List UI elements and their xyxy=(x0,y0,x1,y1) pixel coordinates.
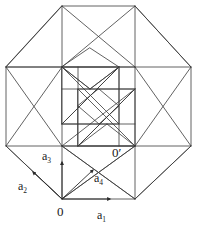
mid-band-lines xyxy=(62,67,135,146)
label-a1: a1 xyxy=(97,209,106,221)
arrow-a2 xyxy=(33,172,62,199)
label-a4: a4 xyxy=(94,172,103,184)
inner-cross-diagonals xyxy=(62,67,135,146)
label-a4-subscript: 4 xyxy=(99,178,103,187)
inner-square-frames xyxy=(62,67,135,146)
upper-inner-x xyxy=(62,6,119,89)
outer-cube-a xyxy=(6,6,135,199)
lattice-diagram xyxy=(0,0,197,226)
diamond-ring xyxy=(62,48,135,146)
outer-cube-b xyxy=(62,6,191,199)
label-a2: a2 xyxy=(18,180,27,192)
label-origin-prime: 0′ xyxy=(112,146,121,159)
label-a3: a3 xyxy=(42,150,51,162)
label-a1-subscript: 1 xyxy=(102,215,106,224)
label-a2-subscript: 2 xyxy=(23,186,27,195)
arrow-a4 xyxy=(62,170,93,199)
label-origin: 0 xyxy=(57,205,64,218)
tesseract-figure: a1 a2 a3 a4 0 0′ xyxy=(0,0,197,226)
label-a3-subscript: 3 xyxy=(47,156,51,165)
